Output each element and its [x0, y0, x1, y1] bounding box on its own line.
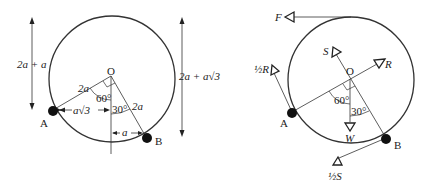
- left-label-angle-60: 60°: [96, 92, 111, 104]
- left-label-angle-30: 30°: [112, 103, 127, 115]
- left-ball-b: [142, 133, 152, 143]
- left-circle: [49, 16, 175, 142]
- right-label-angle-60: 60°: [334, 94, 349, 106]
- force-label-w: W: [345, 132, 355, 144]
- force-half-s-arrow-icon: [333, 157, 342, 165]
- left-label-a-root3: a√3: [73, 104, 91, 116]
- arrowhead-down: [180, 130, 185, 137]
- left-right-angle-mark: [103, 81, 115, 87]
- left-label-ob-length: 2a: [132, 100, 144, 112]
- force-label-f: F: [274, 11, 282, 23]
- arrowhead-up: [180, 17, 185, 24]
- arrowhead-left: [59, 108, 65, 113]
- left-label-o: O: [107, 65, 115, 77]
- left-ball-a: [48, 106, 58, 116]
- right-figure: O A B 60° 30° F S R ½R W ½S: [254, 11, 414, 182]
- left-height-label-b: 2a + a√3: [179, 70, 220, 82]
- mechanics-diagram: O A B 2a 2a 60° 30° a√3 a 2a + a 2a + a√…: [0, 0, 430, 194]
- force-label-half-s: ½S: [328, 170, 342, 182]
- force-w-arrow-icon: [345, 123, 355, 131]
- arrowhead-up: [30, 17, 35, 24]
- arrowhead-down: [30, 103, 35, 110]
- force-f-arrow-icon: [285, 12, 294, 22]
- right-ball-b: [381, 134, 391, 144]
- left-label-a: a: [122, 126, 128, 138]
- right-label-o: O: [346, 65, 354, 77]
- left-label-b: B: [155, 135, 162, 147]
- right-right-angle-mark: [343, 84, 355, 90]
- arrowhead-right: [104, 108, 110, 113]
- left-figure: O A B 2a 2a 60° 30° a√3 a 2a + a 2a + a√…: [17, 16, 220, 154]
- arrowhead-left: [112, 131, 117, 135]
- force-label-half-r: ½R: [254, 63, 269, 75]
- right-ball-a: [287, 108, 297, 118]
- diagram-stage: O A B 2a 2a 60° 30° a√3 a 2a + a 2a + a√…: [0, 0, 430, 194]
- force-r-arrow-icon: [374, 59, 385, 68]
- left-label-a: A: [40, 117, 48, 129]
- force-label-s: S: [323, 45, 329, 57]
- right-label-angle-30: 30°: [351, 105, 366, 117]
- left-height-label-a: 2a + a: [17, 58, 47, 70]
- force-label-r: R: [384, 58, 392, 70]
- right-label-a: A: [280, 117, 288, 129]
- right-label-b: B: [394, 139, 401, 151]
- force-half-r-arrow-icon: [271, 65, 279, 75]
- left-label-oa-length: 2a: [78, 82, 90, 94]
